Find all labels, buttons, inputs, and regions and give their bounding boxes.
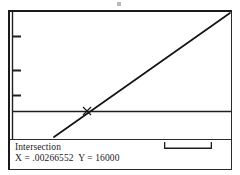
- plot-area: [10, 12, 231, 139]
- scan-artifact-mark: [117, 2, 121, 6]
- y-axis-ticks: [13, 37, 21, 96]
- intersection-readout-title: Intersection: [15, 142, 61, 152]
- figure: Intersection X = .00266552 Y = 16000: [0, 0, 240, 175]
- data-line-series: [54, 13, 230, 137]
- scale-bar: [164, 142, 212, 149]
- intersection-readout-values: X = .00266552 Y = 16000: [15, 153, 120, 163]
- plot-svg: [10, 12, 231, 139]
